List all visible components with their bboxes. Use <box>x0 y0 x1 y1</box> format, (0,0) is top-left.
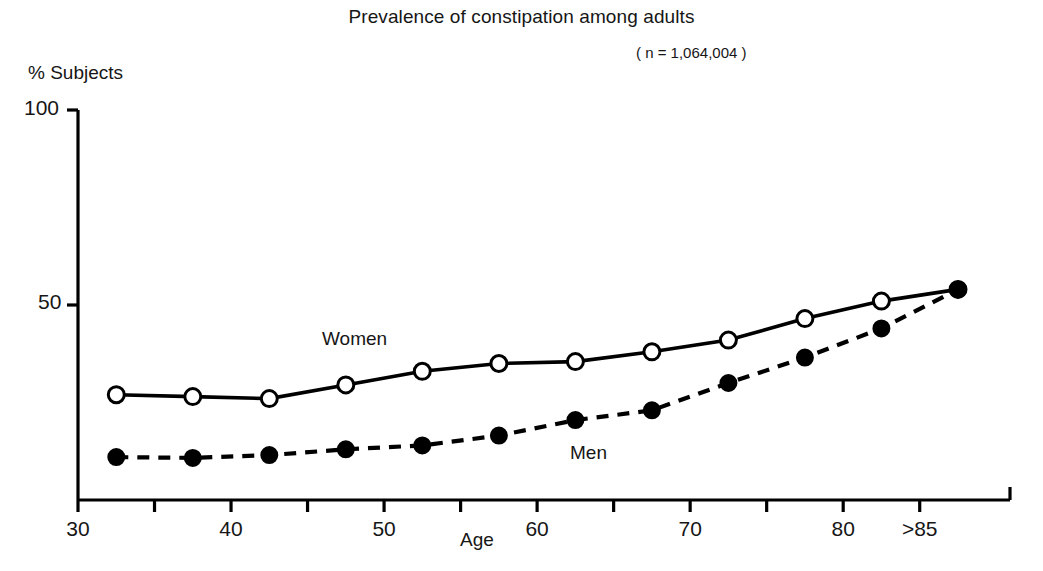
x-tick-label: 50 <box>372 517 395 540</box>
data-point-women <box>185 389 201 405</box>
data-point-men <box>261 447 277 463</box>
data-point-women <box>873 293 889 309</box>
chart-figure: Prevalence of constipation among adults … <box>0 0 1043 571</box>
data-point-men <box>338 441 354 457</box>
x-tick-label: 40 <box>219 517 242 540</box>
data-point-women <box>644 344 660 360</box>
data-point-men <box>108 449 124 465</box>
data-point-women <box>797 311 813 327</box>
data-point-women <box>491 356 507 372</box>
data-point-men <box>414 437 430 453</box>
data-point-women <box>108 387 124 403</box>
data-point-men <box>797 350 813 366</box>
data-point-men <box>567 412 583 428</box>
x-tick-labels: 304050607080>85 <box>66 517 937 540</box>
x-tick-label: >85 <box>902 517 938 540</box>
series-line-women <box>116 289 958 398</box>
data-point-women <box>414 363 430 379</box>
data-point-men <box>644 402 660 418</box>
data-point-women <box>720 332 736 348</box>
data-point-men <box>873 320 889 336</box>
data-point-men <box>720 375 736 391</box>
plot-area: 304050607080>85 <box>0 0 1043 571</box>
data-series <box>108 281 966 466</box>
series-annotation-men: Men <box>570 442 607 464</box>
x-tick-label: 30 <box>66 517 89 540</box>
data-point-women <box>261 391 277 407</box>
axes <box>67 110 1010 512</box>
data-point-men <box>185 450 201 466</box>
data-point-men <box>950 281 966 297</box>
data-point-men <box>491 428 507 444</box>
data-point-women <box>338 377 354 393</box>
x-tick-label: 80 <box>832 517 855 540</box>
series-line-men <box>116 289 958 458</box>
x-tick-label: 60 <box>525 517 548 540</box>
data-point-women <box>567 354 583 370</box>
series-annotation-women: Women <box>322 328 387 350</box>
x-axis-label: Age <box>460 529 494 551</box>
x-tick-label: 70 <box>678 517 701 540</box>
